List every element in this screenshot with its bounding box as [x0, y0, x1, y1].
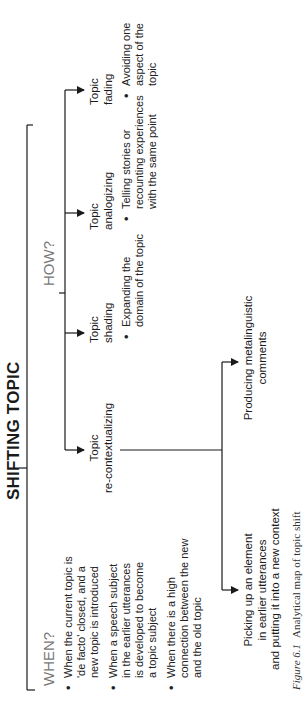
sub-producing-metalinguistic-comments: Producing metalinguistic comments: [242, 293, 269, 423]
when-condition-1: When the current topic is 'de facto' clo…: [62, 539, 101, 690]
branch-topic-re-contextualizing: Topic re-contextualizing: [88, 403, 115, 493]
figure-caption: Figure 6.1Analytical map of topic shift: [290, 512, 302, 691]
branch-topic-fading: Topic fading: [88, 65, 115, 111]
diagram-title: SHIFTING TOPIC: [4, 362, 24, 501]
when-conditions-list: When the current topic is 'de facto' clo…: [62, 539, 210, 690]
figure-number: Figure 6.1: [290, 644, 302, 690]
topic-shift-diagram: SHIFTING TOPIC WHEN? HOW? When the curre…: [0, 0, 307, 723]
how-label: HOW?: [40, 241, 57, 286]
branch-topic-analogizing: Topic analogizing: [88, 170, 115, 243]
analogizing-description: Telling stories or recounting experience…: [120, 95, 165, 221]
when-condition-2: When a speech subject in the earlier utt…: [107, 539, 159, 690]
sub-picking-up-element: Picking up an element in earlier utteran…: [242, 510, 283, 670]
figure-caption-text: Analytical map of topic shift: [290, 512, 302, 638]
when-condition-3: When there is a high connection between …: [165, 539, 204, 690]
when-label: WHEN?: [40, 632, 57, 686]
fading-description: Avoiding one aspect of the topic: [120, 23, 165, 98]
shading-description: Expanding the domain of the topic: [120, 234, 152, 339]
branch-topic-shading: Topic shading: [88, 283, 115, 353]
